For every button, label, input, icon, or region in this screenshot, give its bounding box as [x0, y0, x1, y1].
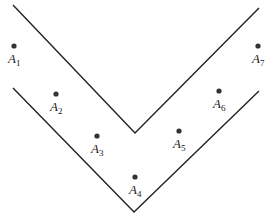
point-label: A7 — [251, 51, 265, 68]
point-a1: A1 — [7, 43, 20, 68]
point-a2: A2 — [49, 91, 62, 116]
point-dot — [176, 128, 181, 133]
point-label: A4 — [128, 182, 142, 199]
point-dot — [53, 91, 58, 96]
point-dot — [216, 88, 221, 93]
point-dot — [94, 133, 99, 138]
point-dot — [132, 174, 137, 179]
point-a4: A4 — [128, 174, 142, 199]
point-label: A1 — [7, 51, 20, 68]
point-a7: A7 — [251, 43, 265, 68]
point-label: A5 — [172, 136, 186, 153]
point-a5: A5 — [172, 128, 186, 153]
point-dot — [255, 43, 260, 48]
point-label: A3 — [90, 141, 104, 158]
point-a6: A6 — [212, 88, 226, 113]
point-label: A2 — [49, 99, 62, 116]
point-dot — [11, 43, 16, 48]
point-a3: A3 — [90, 133, 104, 158]
v-shaped-channel-diagram: A1A2A3A4A5A6A7 — [0, 0, 274, 224]
point-label: A6 — [212, 96, 226, 113]
